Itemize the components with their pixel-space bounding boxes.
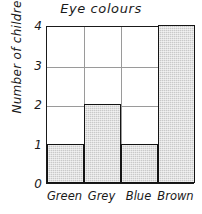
y-axis-tick-labels: 01234 <box>26 26 42 184</box>
bar-grey <box>84 104 121 183</box>
y-tick-3: 3 <box>28 60 42 72</box>
plot-area <box>46 26 194 184</box>
y-tick-2: 2 <box>28 99 42 111</box>
y-tick-4: 4 <box>28 20 42 32</box>
x-axis-tick-labels: GreenGreyBlueBrown <box>40 189 202 209</box>
bar-green <box>47 144 84 184</box>
bar-brown <box>158 25 195 183</box>
y-tick-1: 1 <box>28 139 42 151</box>
y-axis-title: Number of children <box>10 0 24 123</box>
x-tick-brown: Brown <box>150 189 202 203</box>
bar-chart: Eye colours Number of children 01234 Gre… <box>0 0 202 214</box>
bars-layer <box>47 27 193 183</box>
bar-blue <box>121 144 158 184</box>
